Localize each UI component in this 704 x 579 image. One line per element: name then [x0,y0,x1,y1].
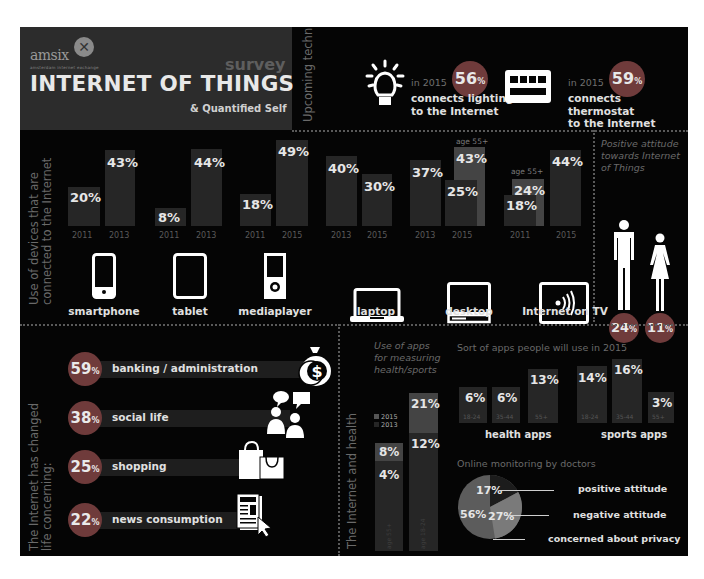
device-label: desktop [432,305,506,317]
year-label: 2015 [282,231,302,240]
life-percent-social: 38% [68,401,102,435]
bar-value: 12% [411,437,440,451]
age-label: 55+ [652,413,665,420]
bar-value: 40% [328,161,359,176]
legend-swatch [374,414,379,419]
health-section-label: The Internet and health [346,413,359,549]
male-percent-badge: 24% [609,313,639,343]
life-percent-news: 22% [68,503,102,537]
logo-tagline: amsterdam internet exchange [30,65,99,70]
year-label: 2013 [331,231,351,240]
leader-line [493,539,525,540]
year-label: 2015 [367,231,387,240]
svg-text:$: $ [311,362,322,381]
legend-item: 2015 [374,413,398,421]
percent-sign: % [629,325,637,334]
percent-value: 11 [647,320,665,335]
text-line: connects lighting [411,92,513,105]
life-label: banking / administration [112,362,258,374]
year-label: 2013 [196,231,216,240]
bar-value: 44% [194,155,225,170]
leader-line [499,490,554,491]
bar-value: 37% [412,165,443,180]
age-label: age 55+ [511,167,543,176]
age-label: 35-44 [616,413,633,420]
male-figure-icon [612,220,636,310]
lightbulb-icon [365,59,405,107]
device-label: tablet [155,305,225,317]
year-label: 2015 [452,231,472,240]
sort-apps-title: Sort of apps people will use in 2015 [457,342,627,354]
bar-value: 20% [70,190,101,205]
percent-sign: % [477,77,485,86]
upcoming-section-label: Upcoming technologies [302,27,315,122]
bar-value: 49% [278,144,309,159]
upcoming-year-1: in 2015 [411,77,447,88]
device-label: Internet on TV [520,305,610,317]
text-line: life concerning: [41,403,54,551]
upcoming-text-thermostat: connects thermostatto the Internet [568,92,688,130]
bar-value: 8% [158,210,180,225]
mediaplayer-icon [264,253,286,299]
legend-label: 2015 [381,413,398,421]
bar-value: 43% [456,151,487,166]
year-label: 2011 [159,231,179,240]
infographic: amsix ✕ amsterdam internet exchange surv… [20,27,688,556]
page-title: INTERNET OF THINGS [30,71,294,96]
life-label: social life [112,411,169,423]
life-percent-banking: 59% [68,352,102,386]
internet-tv-icon [539,282,589,324]
thermostat-icon [505,70,551,103]
device-label: mediaplayer [238,305,312,317]
age-label: 55+ [535,413,548,420]
bar-value: 6% [465,391,485,405]
money-bag-icon: $ [298,345,332,387]
year-label: 2011 [245,231,265,240]
bar-value: 30% [364,179,395,194]
bar-value: 43% [107,155,138,170]
text-line: to the Internet [568,117,688,130]
age-label: 35-44 [496,413,513,420]
age-label: age 55+ [385,523,392,549]
legend-label: 2013 [381,421,398,429]
percent-value: 59 [71,360,92,378]
divider [292,130,688,132]
year-label: 2011 [510,231,530,240]
life-label: shopping [112,460,167,472]
life-section-label: The Internet has changedlife concerning: [28,403,54,551]
leader-line [507,515,549,516]
bar-value: 13% [530,373,559,387]
pie-value: 27% [488,510,514,523]
devices-section-label: Use of devices that areconnected to the … [28,158,54,305]
female-figure-icon [649,233,671,311]
attitude-title: Positive attitude towards Internet of Th… [601,138,680,174]
smartphone-icon [92,253,116,299]
bar-value: 18% [242,197,273,212]
life-percent-shopping: 25% [68,450,102,484]
desktop-icon [447,282,491,324]
divider [20,324,688,326]
female-percent-badge: 11% [645,313,675,343]
bar-value: 3% [652,396,672,410]
pie-value: 56% [460,508,486,521]
bar-value: 25% [447,184,478,199]
bar-value: 21% [411,397,440,411]
logo-text: ams [30,47,57,63]
percent-value: 56 [455,69,477,88]
percent-value: 24 [611,320,629,335]
text-line: health/sports [374,364,441,376]
pie-label: negative attitude [573,509,666,520]
pie-label: positive attitude [578,483,667,494]
percent-sign: % [91,518,99,527]
health-apps-label: health apps [485,429,551,440]
sports-apps-label: sports apps [601,429,667,440]
age-label: age 55+ [456,137,488,146]
divider [338,324,340,556]
text-line: of Things [601,162,680,174]
logo: amsix [30,47,69,63]
percent-sign: % [91,465,99,474]
logo-suffix: ix [57,47,68,63]
age-label: 18-24 [463,413,480,420]
percent-sign: % [634,77,642,86]
legend-item: 2013 [374,421,398,429]
